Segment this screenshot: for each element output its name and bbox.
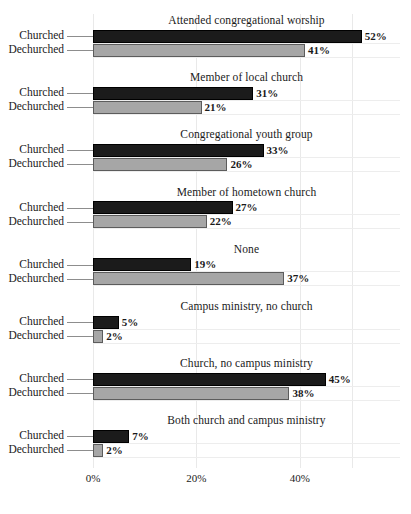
leader-line <box>67 322 93 323</box>
leader-line <box>67 279 93 280</box>
row-category-label: Churched <box>0 257 64 271</box>
chart-row: Dechurched37% <box>0 272 411 286</box>
leader-line <box>67 222 93 223</box>
chart-row: Dechurched41% <box>0 43 411 57</box>
bar-dechurched <box>93 44 305 57</box>
row-category-label: Churched <box>0 28 64 42</box>
leader-line <box>67 336 93 337</box>
panel-rows: Churched45%Dechurched38% <box>0 372 411 402</box>
panel-rows: Churched27%Dechurched22% <box>0 201 411 231</box>
leader-line <box>67 50 93 51</box>
chart-row: Dechurched2% <box>0 443 411 457</box>
bar-churched <box>93 87 253 100</box>
panel-title: Congregational youth group <box>93 128 400 141</box>
row-category-label: Dechurched <box>0 214 64 228</box>
panel-title: Member of local church <box>93 71 400 84</box>
bar-churched <box>93 258 191 271</box>
row-category-label: Dechurched <box>0 99 64 113</box>
row-category-label: Dechurched <box>0 271 64 285</box>
row-category-label: Dechurched <box>0 42 64 56</box>
leader-line <box>67 107 93 108</box>
bar-value-label: 5% <box>119 315 139 329</box>
bar-dechurched <box>93 330 103 343</box>
row-category-label: Churched <box>0 371 64 385</box>
bar-value-label: 27% <box>233 200 258 214</box>
bar-value-label: 19% <box>191 257 216 271</box>
bar-dechurched <box>93 387 289 400</box>
panel-rows: Churched19%Dechurched37% <box>0 258 411 288</box>
panel-title: Church, no campus ministry <box>93 357 400 370</box>
leader-line <box>67 450 93 451</box>
bar-churched <box>93 30 362 43</box>
row-category-label: Churched <box>0 85 64 99</box>
grouped-bar-chart: Attended congregational worshipChurched5… <box>0 0 411 514</box>
leader-line <box>67 93 93 94</box>
bar-value-label: 22% <box>207 214 232 228</box>
bar-value-label: 38% <box>289 386 314 400</box>
chart-row: Churched7% <box>0 429 411 443</box>
bar-value-label: 26% <box>227 157 252 171</box>
row-category-label: Dechurched <box>0 442 64 456</box>
panel-title: Attended congregational worship <box>93 14 400 27</box>
row-category-label: Dechurched <box>0 156 64 170</box>
bar-value-label: 41% <box>305 43 330 57</box>
panel-rows: Churched5%Dechurched2% <box>0 315 411 345</box>
leader-line <box>67 164 93 165</box>
bar-dechurched <box>93 444 103 457</box>
row-category-label: Dechurched <box>0 385 64 399</box>
panel-title: Member of hometown church <box>93 186 400 199</box>
leader-line <box>67 36 93 37</box>
leader-line <box>67 265 93 266</box>
panel-title: Campus ministry, no church <box>93 300 400 313</box>
bar-churched <box>93 430 129 443</box>
chart-row: Churched45% <box>0 372 411 386</box>
row-category-label: Churched <box>0 314 64 328</box>
leader-line <box>67 208 93 209</box>
row-category-label: Churched <box>0 200 64 214</box>
chart-row: Dechurched38% <box>0 386 411 400</box>
bar-churched <box>93 201 233 214</box>
bar-churched <box>93 373 326 386</box>
leader-line <box>67 150 93 151</box>
bar-dechurched <box>93 215 207 228</box>
bar-churched <box>93 144 264 157</box>
leader-line <box>67 436 93 437</box>
chart-row: Churched33% <box>0 143 411 157</box>
bar-value-label: 7% <box>129 429 149 443</box>
row-category-label: Churched <box>0 142 64 156</box>
chart-row: Dechurched21% <box>0 100 411 114</box>
chart-row: Churched19% <box>0 258 411 272</box>
bar-value-label: 2% <box>103 329 123 343</box>
bar-value-label: 37% <box>284 271 309 285</box>
bar-value-label: 2% <box>103 443 123 457</box>
x-tick-label: 40% <box>290 472 310 485</box>
panel-rows: Churched33%Dechurched26% <box>0 143 411 173</box>
chart-row: Dechurched26% <box>0 157 411 171</box>
x-tick-label: 20% <box>186 472 206 485</box>
row-category-label: Churched <box>0 428 64 442</box>
leader-line <box>67 393 93 394</box>
x-tick-label: 0% <box>86 472 101 485</box>
bar-value-label: 52% <box>362 29 387 43</box>
bar-value-label: 21% <box>202 100 227 114</box>
panel-rows: Churched31%Dechurched21% <box>0 86 411 116</box>
bar-dechurched <box>93 272 284 285</box>
bar-value-label: 33% <box>264 143 289 157</box>
row-category-label: Dechurched <box>0 328 64 342</box>
chart-row: Dechurched22% <box>0 215 411 229</box>
chart-row: Churched31% <box>0 86 411 100</box>
panel-title: Both church and campus ministry <box>93 414 400 427</box>
chart-row: Churched5% <box>0 315 411 329</box>
chart-row: Dechurched2% <box>0 329 411 343</box>
bar-churched <box>93 316 119 329</box>
chart-row: Churched52% <box>0 29 411 43</box>
bar-value-label: 45% <box>326 372 351 386</box>
panel-title: None <box>93 243 400 256</box>
bar-value-label: 31% <box>253 86 278 100</box>
panel-rows: Churched52%Dechurched41% <box>0 29 411 59</box>
bar-dechurched <box>93 158 227 171</box>
panel-rows: Churched7%Dechurched2% <box>0 429 411 459</box>
chart-row: Churched27% <box>0 201 411 215</box>
leader-line <box>67 379 93 380</box>
bar-dechurched <box>93 101 202 114</box>
